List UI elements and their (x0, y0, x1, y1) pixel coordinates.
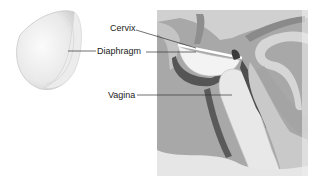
diaphragm-label: Diaphragm (97, 46, 141, 56)
cervix-label: Cervix (110, 23, 136, 33)
diagram-artwork (0, 0, 324, 182)
vagina-label: Vagina (108, 90, 135, 100)
diaphragm-diagram: Cervix Diaphragm Vagina (0, 0, 324, 182)
anatomy-cross-section (157, 10, 308, 182)
diaphragm-device-icon (17, 11, 82, 90)
